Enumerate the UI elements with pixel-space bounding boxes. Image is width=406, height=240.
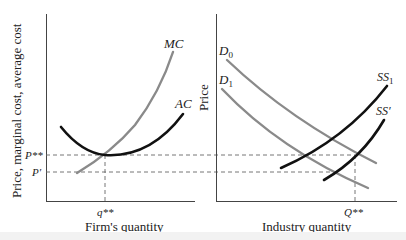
d0-label: D0: [218, 43, 233, 60]
d1-curve: [222, 89, 368, 188]
ss1-curve: [281, 86, 387, 168]
ac-label: AC: [174, 96, 192, 111]
long-run-equilibrium-diagram: MC AC P** P′ q** Price, marginal cost, a…: [0, 0, 406, 240]
big-q-star-label: Q**: [344, 206, 363, 218]
q-star-label: q**: [97, 206, 114, 218]
d1-label: D1: [218, 72, 233, 89]
p-prime-label: P′: [31, 166, 42, 178]
p-star-label: P**: [24, 149, 43, 161]
bottom-strip: [0, 232, 406, 240]
d0-curve: [227, 60, 376, 163]
mc-label: MC: [163, 36, 184, 51]
ss1-label: SS1: [377, 70, 394, 86]
left-y-axis-label: Price, marginal cost, average cost: [9, 23, 24, 198]
right-panel: D0 D1 SS1 SS′ Q** Price Industry quantit…: [196, 14, 397, 234]
ss-prime-label: SS′: [376, 104, 391, 118]
right-y-axis-label: Price: [196, 84, 211, 111]
ac-curve: [61, 114, 183, 155]
